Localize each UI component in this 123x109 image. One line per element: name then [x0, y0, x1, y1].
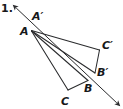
geometry-figure: 1. A′ A C′ B′ B C — [0, 0, 123, 109]
item-number: 1. — [1, 3, 13, 14]
vertex-label-a-prime: A′ — [32, 11, 43, 22]
figure-canvas — [0, 0, 123, 109]
vertex-label-b-prime: B′ — [97, 67, 108, 78]
vertex-label-c-prime: C′ — [102, 40, 113, 51]
vertex-label-c: C — [61, 96, 69, 107]
segment-A-B-prime — [32, 31, 96, 73]
vertex-label-a: A — [20, 26, 29, 37]
vertex-label-b: B — [84, 83, 92, 94]
